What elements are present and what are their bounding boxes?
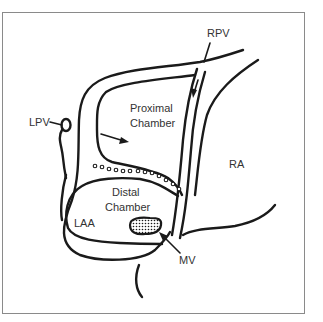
cor-triatriatum-diagram: RPV LPV Proximal Chamber Distal Chamber …: [0, 0, 323, 322]
label-lpv: LPV: [29, 116, 50, 128]
ra-lower-wall: [183, 205, 275, 235]
ra-wall: [195, 60, 258, 195]
label-ra: RA: [229, 158, 245, 170]
lpv-vessel-line: [60, 130, 66, 178]
label-distal-2: Chamber: [105, 201, 151, 213]
label-rpv: RPV: [207, 27, 230, 39]
mitral-valve-shape: [130, 218, 161, 235]
label-proximal-2: Chamber: [130, 117, 176, 129]
mv-pointer: [163, 236, 180, 253]
label-mv: MV: [179, 254, 196, 266]
arrowhead-down-icon: [191, 88, 197, 98]
septum-line-right: [180, 72, 205, 238]
arrowhead-icon: [119, 137, 129, 144]
label-proximal-1: Proximal: [130, 102, 173, 114]
label-laa: LAA: [74, 217, 95, 229]
label-distal-1: Distal: [112, 186, 140, 198]
ivc-line: [136, 265, 142, 297]
lpv-pointer: [50, 122, 62, 125]
